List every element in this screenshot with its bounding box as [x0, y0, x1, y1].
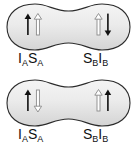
- spin-pair-right-bottom: [92, 88, 118, 114]
- label-sub-I-A: A: [22, 134, 28, 144]
- label-sub-I-B: B: [102, 134, 108, 144]
- label-sub-S-A: A: [37, 58, 43, 68]
- label-base-S-A: S: [28, 50, 37, 66]
- label-left-bottom: IASA: [18, 126, 43, 142]
- spin-pair-left-bottom: [22, 88, 48, 114]
- panel-top: IASA SBIB: [0, 0, 137, 74]
- panel-bottom: IASA SBIB: [0, 76, 137, 150]
- label-sub-S-B: B: [92, 134, 98, 144]
- label-left-top: IASA: [18, 50, 43, 66]
- label-base-S-A: S: [28, 126, 37, 142]
- label-row-bottom: IASA SBIB: [0, 126, 137, 148]
- spin-pair-figure: IASA SBIB: [0, 0, 137, 159]
- label-row-top: IASA SBIB: [0, 50, 137, 72]
- arrow-up-hollow-icon: [95, 90, 102, 112]
- arrow-down-hollow-icon: [34, 90, 41, 112]
- spin-pair-right-top: [92, 12, 118, 38]
- label-right-bottom: SBIB: [83, 126, 108, 142]
- label-sub-I-A: A: [22, 58, 28, 68]
- arrow-up-filled-icon: [25, 90, 32, 112]
- arrow-up-hollow-icon: [34, 14, 41, 36]
- arrow-up-filled-icon: [105, 90, 112, 112]
- label-sub-S-B: B: [92, 58, 98, 68]
- arrow-down-filled-icon: [105, 14, 112, 36]
- label-sub-S-A: A: [37, 134, 43, 144]
- label-base-S-B: S: [83, 50, 92, 66]
- spin-pair-left-top: [22, 12, 48, 38]
- label-sub-I-B: B: [102, 58, 108, 68]
- label-right-top: SBIB: [83, 50, 108, 66]
- arrow-up-hollow-icon: [95, 14, 102, 36]
- label-base-S-B: S: [83, 126, 92, 142]
- arrow-up-filled-icon: [25, 14, 32, 36]
